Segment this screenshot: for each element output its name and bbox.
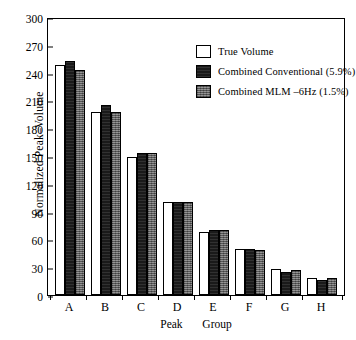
y-tick-label: 240 bbox=[26, 69, 48, 81]
bar bbox=[55, 65, 65, 295]
x-axis-title-part1: Peak bbox=[160, 318, 182, 330]
x-tick-mark bbox=[122, 295, 123, 300]
legend-label: Combined MLM –6Hz (1.5%) bbox=[218, 86, 349, 97]
x-tick-label-b: B bbox=[101, 300, 109, 315]
bar bbox=[137, 153, 147, 295]
bar bbox=[199, 232, 209, 295]
x-tick-mark bbox=[86, 295, 87, 300]
legend-swatch-icon bbox=[196, 45, 211, 58]
bar bbox=[235, 249, 245, 295]
bar-chart: Normalized Peak–Volume 03060901201501802… bbox=[0, 0, 356, 340]
bar bbox=[317, 280, 327, 295]
y-tick-label: 150 bbox=[26, 152, 48, 164]
x-tick-mark bbox=[230, 295, 231, 300]
y-tick-label: 30 bbox=[32, 263, 49, 275]
legend-item: Combined MLM –6Hz (1.5%) bbox=[196, 85, 355, 98]
bar bbox=[75, 70, 85, 295]
x-axis-title-part2: Group bbox=[202, 318, 231, 330]
bar bbox=[219, 230, 229, 295]
bar-group-d bbox=[163, 19, 193, 295]
bar bbox=[111, 112, 121, 295]
legend-item: Combined Conventional (5.9%) bbox=[196, 65, 355, 78]
x-tick-label-d: D bbox=[173, 300, 182, 315]
bar bbox=[281, 272, 291, 295]
y-tick-label: 270 bbox=[26, 41, 48, 53]
bar bbox=[327, 278, 337, 295]
bar-group-c bbox=[127, 19, 157, 295]
bar bbox=[101, 105, 111, 295]
x-axis-title: Peak Group bbox=[47, 318, 345, 330]
bar bbox=[245, 249, 255, 295]
x-tick-label-c: C bbox=[137, 300, 145, 315]
bar-group-b bbox=[91, 19, 121, 295]
y-tick-label: 60 bbox=[32, 235, 49, 247]
x-tick-mark bbox=[266, 295, 267, 300]
y-tick-label: 210 bbox=[26, 96, 48, 108]
x-tick-label-a: A bbox=[65, 300, 74, 315]
x-tick-mark bbox=[158, 295, 159, 300]
x-tick-label-g: G bbox=[281, 300, 290, 315]
bar bbox=[127, 157, 137, 295]
x-tick-label-e: E bbox=[209, 300, 216, 315]
legend-swatch-icon bbox=[196, 65, 211, 78]
bar bbox=[91, 112, 101, 295]
x-tick-mark bbox=[302, 295, 303, 300]
bar bbox=[183, 202, 193, 295]
bar bbox=[291, 270, 301, 295]
x-tick-mark bbox=[50, 295, 51, 300]
legend-swatch-icon bbox=[196, 85, 211, 98]
bar bbox=[147, 153, 157, 295]
y-tick-label: 120 bbox=[26, 180, 48, 192]
x-tick-mark bbox=[194, 295, 195, 300]
x-tick-mark bbox=[342, 295, 343, 300]
bar bbox=[209, 230, 219, 295]
bar bbox=[255, 250, 265, 295]
bar bbox=[163, 202, 173, 295]
legend-label: Combined Conventional (5.9%) bbox=[218, 66, 355, 77]
bar bbox=[65, 61, 75, 295]
y-tick-label: 0 bbox=[37, 291, 48, 303]
y-tick-label: 180 bbox=[26, 124, 48, 136]
x-tick-label-h: H bbox=[317, 300, 326, 315]
legend-item: True Volume bbox=[196, 45, 355, 58]
y-tick-label: 300 bbox=[26, 13, 48, 25]
legend-label: True Volume bbox=[218, 46, 273, 57]
y-tick-label: 90 bbox=[32, 208, 49, 220]
bar-group-a bbox=[55, 19, 85, 295]
bar bbox=[173, 202, 183, 295]
bar bbox=[307, 278, 317, 295]
bar bbox=[271, 269, 281, 295]
legend: True VolumeCombined Conventional (5.9%)C… bbox=[196, 45, 355, 98]
x-tick-label-f: F bbox=[246, 300, 253, 315]
